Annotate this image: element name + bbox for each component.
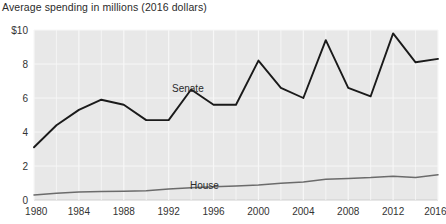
series-label-house: House xyxy=(190,180,219,191)
x-axis-tick-label: 1992 xyxy=(158,206,180,217)
y-axis-tick-label: 6 xyxy=(0,93,28,104)
x-axis-tick-label: 2000 xyxy=(247,206,269,217)
series-label-senate: Senate xyxy=(172,83,204,94)
y-axis-tick-label: 8 xyxy=(0,59,28,70)
x-axis-tick-label: 2016 xyxy=(424,206,446,217)
y-axis-tick-label: $10 xyxy=(0,25,28,36)
x-axis-tick-label: 2008 xyxy=(337,206,359,217)
x-axis-tick-label: 1996 xyxy=(202,206,224,217)
y-axis-tick-label: 2 xyxy=(0,161,28,172)
y-axis-tick-label: 0 xyxy=(0,195,28,206)
x-axis-tick-label: 1980 xyxy=(25,206,47,217)
y-axis-tick-label: 4 xyxy=(0,127,28,138)
x-axis-tick-label: 1988 xyxy=(113,206,135,217)
gridlines xyxy=(34,30,438,200)
x-axis-tick-label: 1984 xyxy=(68,206,90,217)
x-axis-tick-label: 2012 xyxy=(382,206,404,217)
x-axis-tick-label: 2004 xyxy=(292,206,314,217)
